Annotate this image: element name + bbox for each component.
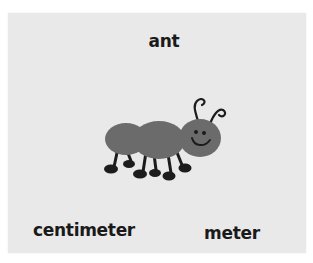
- measurement-card: ant centimeter mete: [8, 13, 306, 253]
- object-title: ant: [15, 31, 313, 51]
- option-meter[interactable]: meter: [204, 223, 260, 243]
- ant-icon: [96, 88, 231, 188]
- option-centimeter[interactable]: centimeter: [33, 220, 135, 240]
